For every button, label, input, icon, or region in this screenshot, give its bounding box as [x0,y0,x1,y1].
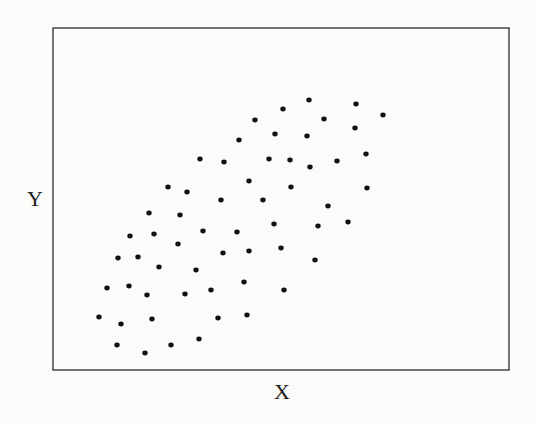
data-point [221,160,226,165]
data-point [177,213,182,218]
data-point [182,292,187,297]
data-point [234,230,239,235]
data-point [156,265,161,270]
data-point [236,138,241,143]
data-point [334,159,339,164]
data-point [196,337,201,342]
data-point [220,251,225,256]
data-point [345,220,350,225]
data-point [127,234,132,239]
data-point [363,152,368,157]
data-point [200,229,205,234]
data-point [241,280,246,285]
data-point [197,157,202,162]
data-point [208,288,213,293]
data-point [142,351,147,356]
data-point [246,249,251,254]
data-point [380,113,385,118]
data-point [246,179,251,184]
x-axis-label: X [274,381,290,403]
data-point [115,256,120,261]
data-point [260,198,265,203]
data-point [104,286,109,291]
data-point [135,255,140,260]
data-point [96,315,101,320]
data-point [244,313,249,318]
data-point [175,242,180,247]
data-point [252,118,257,123]
data-point [114,343,119,348]
data-point [271,222,276,227]
data-point [315,224,320,229]
data-point [280,107,285,112]
scatter-plot [0,0,536,424]
data-point [281,288,286,293]
data-point [184,190,189,195]
data-point [272,132,277,137]
data-point [306,98,311,103]
data-point [218,198,223,203]
data-point [126,284,131,289]
y-axis-label: Y [27,188,43,210]
data-point [118,322,123,327]
plot-frame [53,28,509,370]
data-point [266,157,271,162]
data-point [146,211,151,216]
data-point [288,185,293,190]
data-point [278,246,283,251]
data-point [307,165,312,170]
data-points [96,98,385,356]
data-point [151,232,156,237]
data-point [193,268,198,273]
data-point [144,293,149,298]
data-point [364,186,369,191]
data-point [304,134,309,139]
data-point [215,316,220,321]
data-point [287,158,292,163]
data-point [325,204,330,209]
data-point [353,102,358,107]
data-point [321,117,326,122]
data-point [165,185,170,190]
data-point [312,258,317,263]
data-point [168,343,173,348]
data-point [352,126,357,131]
data-point [149,317,154,322]
